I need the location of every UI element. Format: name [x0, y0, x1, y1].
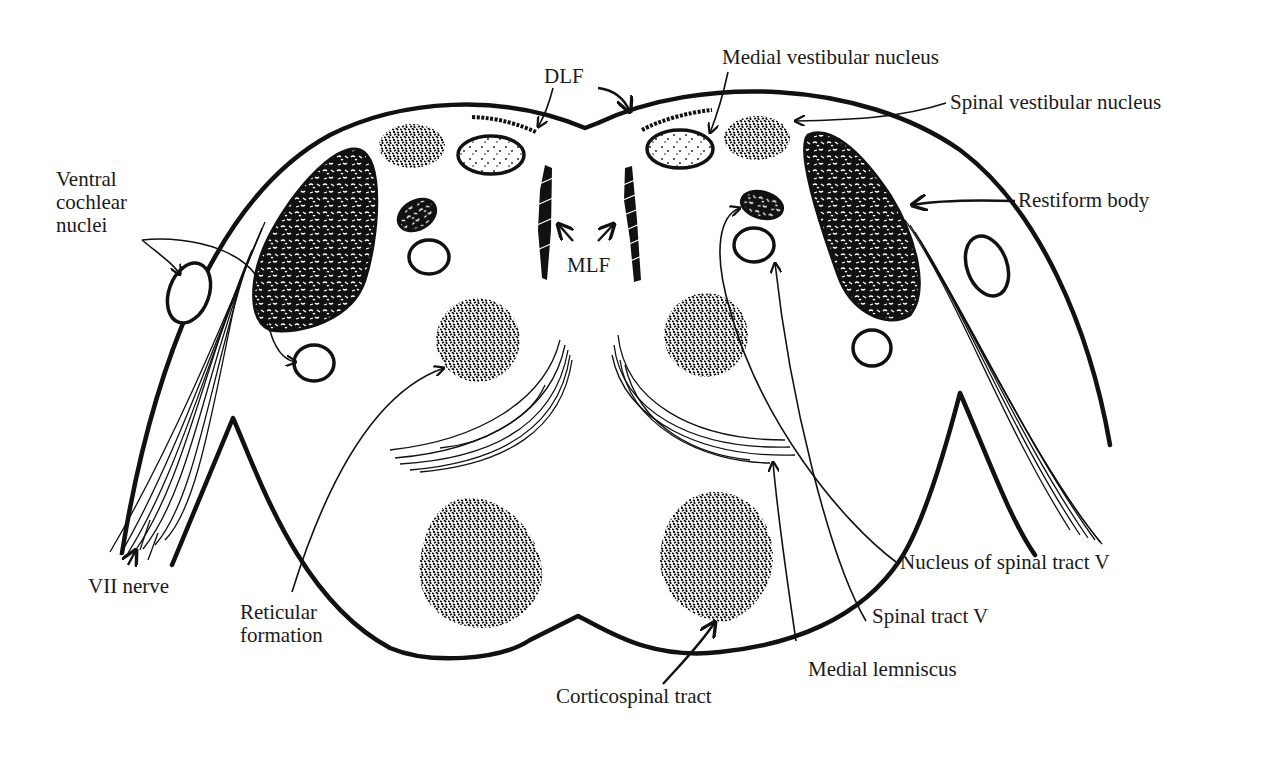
- leader-mlf-right: [598, 224, 614, 241]
- label-restiform-body: Restiform body: [1018, 188, 1150, 212]
- medial-vestibular-nucleus-left: [458, 136, 524, 174]
- brainstem-diagram: Ventral cochlear nuclei DLF Medial vesti…: [0, 0, 1271, 757]
- label-reticular-formation: Reticular formation: [240, 600, 323, 647]
- corticospinal-tract-right: [660, 492, 773, 622]
- corticospinal-tract-left: [419, 498, 542, 628]
- label-spinal-tract-v: Spinal tract V: [872, 604, 988, 628]
- leader-mlf-left: [558, 224, 573, 241]
- label-nucleus-of-spinal-tract-v: Nucleus of spinal tract V: [900, 550, 1110, 574]
- leader-dlf-left: [538, 88, 553, 127]
- leader-restiform-body: [912, 200, 1015, 205]
- nucleus-spinal-tract-v-right: [738, 187, 785, 223]
- leader-medial-lemniscus: [773, 462, 796, 641]
- reticular-formation-right: [664, 293, 748, 377]
- ventral-cochlear-nucleus-ventral-right: [853, 330, 891, 366]
- leader-spinal-tract-v: [775, 263, 866, 621]
- dlf-right: [642, 110, 712, 130]
- label-dlf: DLF: [544, 64, 584, 88]
- spinal-tract-v-right: [734, 228, 774, 262]
- leader-medial-vestibular: [710, 72, 728, 133]
- label-corticospinal-tract: Corticospinal tract: [556, 684, 712, 708]
- reticular-formation-left: [436, 298, 520, 382]
- restiform-body-right: [804, 133, 919, 320]
- label-medial-lemniscus: Medial lemniscus: [808, 657, 957, 681]
- leader-ventral-cochlear-1: [142, 240, 180, 275]
- nucleus-spinal-tract-v-left: [393, 193, 442, 237]
- label-mlf: MLF: [567, 253, 610, 277]
- mlf-left: [538, 165, 552, 280]
- label-ventral-cochlear-nuclei: Ventral cochlear nuclei: [56, 167, 132, 237]
- spinal-vestibular-nucleus-left: [379, 124, 445, 168]
- medial-vestibular-nucleus-right: [647, 130, 713, 168]
- ventral-cochlear-nucleus-ventral-left: [294, 345, 334, 381]
- spinal-vestibular-nucleus-right: [724, 116, 790, 160]
- ventral-cochlear-nucleus-dorsal-right: [958, 230, 1017, 302]
- label-spinal-vestibular-nucleus: Spinal vestibular nucleus: [950, 90, 1161, 114]
- spinal-tract-v-left: [409, 240, 449, 274]
- dlf-left: [472, 117, 536, 132]
- label-medial-vestibular-nucleus: Medial vestibular nucleus: [722, 45, 939, 69]
- label-vii-nerve: VII nerve: [88, 574, 169, 598]
- leader-dlf-right: [598, 88, 630, 112]
